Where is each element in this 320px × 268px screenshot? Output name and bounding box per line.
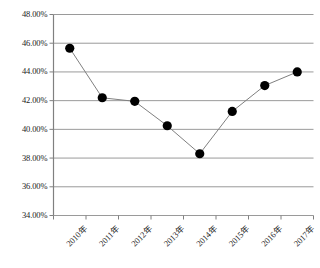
data-point-marker [130, 97, 139, 106]
data-point-marker [163, 121, 172, 130]
data-point-marker [65, 44, 74, 53]
y-axis-tick-label: 42.00% [22, 95, 48, 105]
y-axis-tick-label: 48.00% [22, 9, 48, 19]
data-point-marker [98, 93, 107, 102]
y-axis-tick-label: 46.00% [22, 38, 48, 48]
data-point-marker [228, 107, 237, 116]
data-point-marker [293, 67, 302, 76]
gridlines [54, 15, 314, 216]
x-axis-ticks [50, 15, 314, 220]
y-axis-tick-label: 44.00% [22, 66, 48, 76]
data-point-marker [195, 149, 204, 158]
line-chart: 48.00%46.00%44.00%42.00%40.00%38.00%36.0… [0, 0, 320, 268]
data-point-marker [260, 81, 269, 90]
y-axis-tick-label: 40.00% [22, 124, 48, 134]
y-axis-tick-label: 38.00% [22, 153, 48, 163]
y-axis-tick-label: 36.00% [22, 181, 48, 191]
y-axis-tick-label: 34.00% [22, 210, 48, 220]
